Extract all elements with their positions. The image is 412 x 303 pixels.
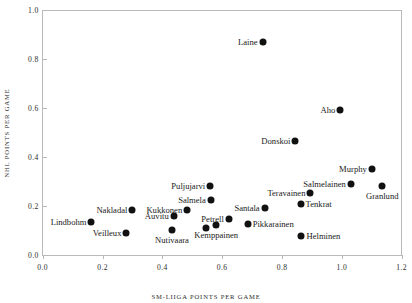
x-tick-label: 0.2	[97, 263, 108, 272]
x-tick-mark	[282, 255, 283, 259]
data-point-label: Veilleux	[93, 228, 122, 238]
data-point[interactable]	[259, 38, 266, 45]
y-tick-mark	[43, 255, 47, 256]
x-tick-label: 0.4	[157, 263, 168, 272]
data-point[interactable]	[261, 204, 268, 211]
data-point[interactable]	[298, 233, 305, 240]
x-tick-mark	[222, 255, 223, 259]
data-point-label: Donskoi	[261, 136, 290, 146]
data-point-label: Auvitu	[145, 211, 169, 221]
y-tick-mark	[43, 59, 47, 60]
data-point[interactable]	[244, 220, 251, 227]
data-point[interactable]	[88, 219, 95, 226]
x-tick-label: 0.6	[217, 263, 228, 272]
data-point[interactable]	[379, 182, 386, 189]
data-point-label: Teravainen	[267, 188, 305, 198]
data-point[interactable]	[337, 106, 344, 113]
data-point[interactable]	[225, 215, 232, 222]
x-tick-mark	[342, 255, 343, 259]
data-point[interactable]	[129, 207, 136, 214]
y-tick-label: 0.8	[17, 55, 39, 64]
data-point[interactable]	[347, 181, 354, 188]
data-point[interactable]	[307, 189, 314, 196]
data-point-label: Murphy	[339, 164, 367, 174]
data-point-label: Nutivaara	[155, 235, 189, 245]
x-tick-label: 0.8	[277, 263, 288, 272]
y-tick-label: 1.0	[17, 6, 39, 15]
data-point-label: Kemppainen	[194, 230, 238, 240]
data-point[interactable]	[207, 197, 214, 204]
y-tick-label: 0.2	[17, 202, 39, 211]
data-point[interactable]	[184, 207, 191, 214]
data-point[interactable]	[202, 225, 209, 232]
y-tick-label: 0.4	[17, 153, 39, 162]
x-tick-mark	[402, 255, 403, 259]
x-tick-label: 1.2	[396, 263, 407, 272]
y-tick-mark	[43, 10, 47, 11]
data-point[interactable]	[170, 212, 177, 219]
data-point[interactable]	[168, 227, 175, 234]
data-point-label: Puljujarvi	[171, 181, 205, 191]
y-axis-title: NHL POINTS PER GAME	[3, 89, 10, 178]
x-tick-label: 1.0	[337, 263, 348, 272]
data-point[interactable]	[207, 182, 214, 189]
data-point-label: Aho	[321, 105, 336, 115]
data-point-label: Helminen	[306, 231, 340, 241]
y-tick-mark	[43, 108, 47, 109]
y-tick-mark	[43, 206, 47, 207]
data-point-label: Lindbohm	[51, 217, 87, 227]
data-point-label: Santala	[234, 203, 259, 213]
x-axis-title: SM-LIIGA POINTS PER GAME	[151, 293, 260, 300]
y-tick-label: 0.0	[17, 251, 39, 260]
data-point[interactable]	[213, 222, 220, 229]
x-tick-mark	[162, 255, 163, 259]
data-point[interactable]	[297, 201, 304, 208]
scatter-plot: 0.00.20.40.60.81.01.2 0.00.20.40.60.81.0…	[0, 0, 412, 303]
y-tick-mark	[43, 157, 47, 158]
x-tick-mark	[103, 255, 104, 259]
data-point[interactable]	[292, 138, 299, 145]
data-point-label: Granlund	[366, 191, 398, 201]
data-point[interactable]	[368, 165, 375, 172]
data-point-label: Salmela	[178, 195, 206, 205]
data-point-label: Nakladal	[96, 205, 127, 215]
x-tick-label: 0.0	[37, 263, 48, 272]
y-tick-label: 0.6	[17, 104, 39, 113]
data-point-label: Laine	[238, 37, 258, 47]
data-point-label: Salmelainen	[303, 179, 345, 189]
data-point-label: Tenkrat	[306, 199, 332, 209]
data-point-label: Pikkarainen	[253, 219, 294, 229]
data-point[interactable]	[123, 230, 130, 237]
